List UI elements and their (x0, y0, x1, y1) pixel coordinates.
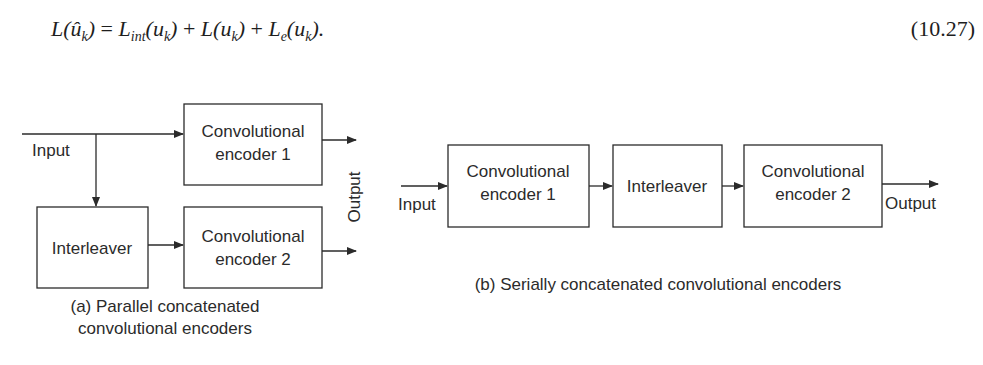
encoder2-block (184, 207, 322, 288)
block-diagrams: Input Convolutional encoder 1 Interleave… (0, 0, 983, 365)
caption-a-line2: convolutional encoders (78, 319, 252, 338)
encoder1-label-line1: Convolutional (201, 122, 304, 141)
encoder2-label-line2: encoder 2 (215, 250, 291, 269)
interleaver-label: Interleaver (52, 239, 133, 258)
serial-encoder1-line1: Convolutional (466, 162, 569, 181)
caption-a-line1: (a) Parallel concatenated (70, 297, 259, 316)
encoder1-label-line2: encoder 1 (215, 145, 291, 164)
caption-b: (b) Serially concatenated convolutional … (475, 275, 842, 294)
serial-output-label: Output (885, 194, 936, 213)
serial-encoder2-line1: Convolutional (761, 162, 864, 181)
serial-encoder2-line2: encoder 2 (775, 185, 851, 204)
serial-encoder1-line2: encoder 1 (480, 185, 556, 204)
serial-input-label: Input (398, 195, 436, 214)
input-label: Input (32, 141, 70, 160)
encoder2-label-line1: Convolutional (201, 227, 304, 246)
parallel-concatenated-diagram (22, 104, 356, 288)
output-label: Output (345, 171, 364, 222)
serial-interleaver-label: Interleaver (627, 177, 708, 196)
